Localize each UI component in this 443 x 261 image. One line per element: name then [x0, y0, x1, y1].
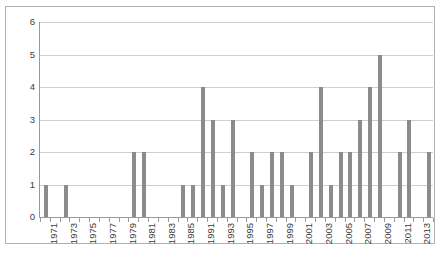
bar-slot	[159, 22, 169, 217]
x-axis-tick-label: 2007	[363, 223, 373, 244]
x-axis-tick	[295, 218, 296, 222]
bar-slot	[208, 22, 218, 217]
x-axis-tick	[168, 218, 169, 222]
bar[interactable]	[427, 152, 431, 217]
bar-slot	[238, 22, 248, 217]
bar[interactable]	[64, 185, 68, 218]
bar-slot	[70, 22, 80, 217]
x-axis-tick	[345, 218, 346, 222]
x-axis-tick-label: 1975	[88, 223, 98, 244]
x-axis-tick	[354, 218, 355, 222]
bar[interactable]	[260, 185, 264, 218]
bar[interactable]	[270, 152, 274, 217]
x-axis-tick	[335, 218, 336, 222]
bar-slot	[336, 22, 346, 217]
bar[interactable]	[201, 87, 205, 217]
x-axis-tick	[227, 218, 228, 222]
x-axis-tick	[148, 218, 149, 222]
x-axis-tick	[60, 218, 61, 222]
bar-slot	[139, 22, 149, 217]
x-axis-tick	[404, 218, 405, 222]
y-axis-tick-label: 2	[30, 147, 35, 157]
bar[interactable]	[358, 120, 362, 218]
bar-slot	[296, 22, 306, 217]
bar[interactable]	[319, 87, 323, 217]
x-axis-tick	[138, 218, 139, 222]
bar[interactable]	[407, 120, 411, 218]
x-axis-tick	[50, 218, 51, 222]
bar-slot	[355, 22, 365, 217]
bar[interactable]	[142, 152, 146, 217]
bar[interactable]	[290, 185, 294, 218]
bar[interactable]	[329, 185, 333, 218]
x-axis-labels: 1971197319751977197919811983198519911993…	[40, 223, 434, 261]
x-axis-tick-label: 1995	[245, 223, 255, 244]
x-axis-tick	[237, 218, 238, 222]
bar-slot	[198, 22, 208, 217]
x-axis-tick	[315, 218, 316, 222]
x-axis-tick	[364, 218, 365, 222]
x-axis-tick	[413, 218, 414, 222]
x-axis-tick	[69, 218, 70, 222]
bar[interactable]	[339, 152, 343, 217]
x-axis-tick	[423, 218, 424, 222]
plot-area: 0123456	[39, 22, 433, 218]
x-axis-tick-label: 2011	[403, 223, 413, 243]
bar-slot	[316, 22, 326, 217]
bar[interactable]	[44, 185, 48, 218]
bar[interactable]	[211, 120, 215, 218]
bar-slot	[247, 22, 257, 217]
bar-slot	[287, 22, 297, 217]
bar[interactable]	[378, 55, 382, 218]
bar-slot	[375, 22, 385, 217]
y-axis-tick-label: 0	[30, 212, 35, 222]
bar[interactable]	[368, 87, 372, 217]
bar[interactable]	[221, 185, 225, 218]
x-axis-tick	[197, 218, 198, 222]
x-axis-tick-label: 1979	[128, 223, 138, 244]
x-axis-tick-label: 2003	[324, 223, 334, 244]
bar-slot	[277, 22, 287, 217]
bar[interactable]	[250, 152, 254, 217]
bars-layer	[41, 22, 433, 217]
bar-slot	[414, 22, 424, 217]
bar-slot	[385, 22, 395, 217]
bar-slot	[257, 22, 267, 217]
bar[interactable]	[191, 185, 195, 218]
x-axis-tick	[158, 218, 159, 222]
y-axis-tick-label: 6	[30, 17, 35, 27]
bar-slot	[267, 22, 277, 217]
x-axis-tick-label: 1971	[49, 223, 59, 244]
bar[interactable]	[231, 120, 235, 218]
bar-slot	[41, 22, 51, 217]
bar-slot	[424, 22, 434, 217]
x-axis-tick	[217, 218, 218, 222]
bar[interactable]	[132, 152, 136, 217]
bar-slot	[129, 22, 139, 217]
bar[interactable]	[181, 185, 185, 218]
y-axis-tick-label: 3	[30, 115, 35, 125]
bar[interactable]	[398, 152, 402, 217]
bar-slot	[51, 22, 61, 217]
x-axis-tick	[40, 218, 41, 222]
x-axis-tick-label: 1973	[69, 223, 79, 244]
x-axis-tick-label: 2005	[344, 223, 354, 244]
x-axis-tick	[286, 218, 287, 222]
bar-slot	[179, 22, 189, 217]
bar-slot	[61, 22, 71, 217]
x-axis-tick-label: 2001	[304, 223, 314, 244]
bar[interactable]	[309, 152, 313, 217]
x-axis-tick-label: 2013	[422, 223, 432, 244]
bar-slot	[306, 22, 316, 217]
bar-slot	[218, 22, 228, 217]
x-axis-tick	[89, 218, 90, 222]
bar-slot	[100, 22, 110, 217]
x-axis-tick-label: 1999	[285, 223, 295, 244]
bar[interactable]	[348, 152, 352, 217]
x-axis-tick	[394, 218, 395, 222]
x-axis-tick	[256, 218, 257, 222]
bar-slot	[228, 22, 238, 217]
x-axis-tick	[374, 218, 375, 222]
bar[interactable]	[280, 152, 284, 217]
y-axis-tick-label: 4	[30, 82, 35, 92]
